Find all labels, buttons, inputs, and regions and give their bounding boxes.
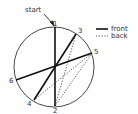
point-label-3: 3 xyxy=(78,27,82,35)
legend: front back xyxy=(96,25,129,40)
point-label-4: 4 xyxy=(27,100,32,108)
winding-diagram: start 1 2 3 4 5 6 front back xyxy=(0,0,138,114)
front-lines xyxy=(16,27,92,106)
point-label-6: 6 xyxy=(9,77,14,85)
point-label-5: 5 xyxy=(94,48,98,56)
legend-back-label: back xyxy=(111,32,129,40)
start-label: start xyxy=(25,6,42,14)
point-label-1: 1 xyxy=(53,20,57,28)
point-label-2: 2 xyxy=(53,107,57,114)
